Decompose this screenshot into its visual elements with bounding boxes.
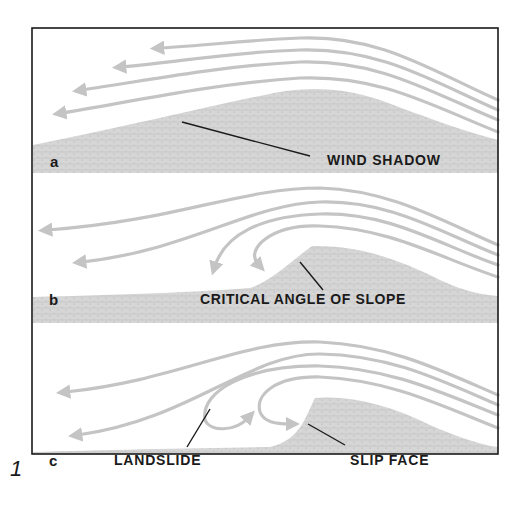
label-wind-shadow: WIND SHADOW — [327, 152, 441, 168]
wind-arrows-b — [48, 188, 498, 277]
figure-number: 1 — [10, 456, 22, 481]
panel-c: c LANDSLIDE SLIP FACE — [33, 342, 498, 469]
panel-separator-bc — [33, 323, 498, 326]
dune-formation-diagram: a WIND SHADOW b CRITICAL ANGLE OF SLOPE … — [0, 0, 519, 510]
panel-b: b CRITICAL ANGLE OF SLOPE — [33, 188, 498, 323]
panel-a: a WIND SHADOW — [33, 38, 498, 173]
panel-letter-b: b — [49, 291, 58, 308]
leader-line-landslide — [187, 409, 210, 447]
panel-letter-a: a — [50, 153, 59, 170]
label-critical-angle-of-slope: CRITICAL ANGLE OF SLOPE — [200, 291, 406, 307]
panel-separator-ab — [33, 173, 498, 176]
dune-sand-b — [33, 246, 498, 323]
dune-sand-c — [33, 397, 498, 454]
wind-arrows-c — [66, 342, 498, 435]
